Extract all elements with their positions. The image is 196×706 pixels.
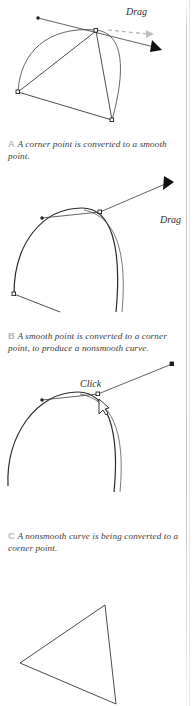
caption-a-text: A corner point is converted to a smooth … [8,139,167,161]
curve-main-b [14,208,118,312]
anchor-point-b-top[interactable] [98,210,102,214]
caption-b: BA smooth point is converted to a corner… [8,330,190,354]
drag-label-a: Drag [126,6,147,17]
caption-c-text: A nonsmooth curve is being converted to … [8,531,178,553]
direction-handle-a-left[interactable] [36,16,39,19]
tangent-line-c-right [98,364,172,394]
curve-outline-a [18,30,120,120]
tangent-line-b-right [100,182,170,212]
anchor-point-a-left[interactable] [16,90,20,94]
document-page: Drag AA corner point is converted to a s… [0,0,196,706]
motion-dashed-line-a [108,30,148,34]
caption-a-letter: A [8,138,15,149]
anchor-point-b-left[interactable] [12,292,16,296]
motion-arrowhead-a [146,30,154,38]
anchor-point-a-bottom[interactable] [110,118,114,122]
direction-handle-b-left[interactable] [40,216,43,219]
cursor-icon [99,399,109,415]
figure-b [0,172,196,312]
figure-c [0,352,196,492]
caption-b-letter: B [8,330,15,341]
triangle-shape [20,605,116,704]
direction-handle-c-left[interactable] [40,398,43,401]
polygon-path-a [18,31,112,120]
direction-handle-c-right[interactable] [170,362,174,366]
tangent-line-b-left [42,212,100,218]
anchor-point-a-top[interactable] [94,29,98,33]
click-label-c: Click [80,378,101,389]
page-edge-rule-secondary [189,0,190,706]
figure-a [0,0,196,136]
tangent-arrowhead-b [163,176,174,190]
caption-a: AA corner point is converted to a smooth… [8,138,190,162]
anchor-point-c-top[interactable] [96,392,100,396]
drag-label-b: Drag [160,214,181,225]
page-edge-rule [186,0,187,706]
caption-c-letter: C [8,530,15,541]
caption-c: CA nonsmooth curve is being converted to… [8,530,190,554]
tangent-arrowhead-a [150,40,162,52]
caption-b-text: A smooth point is converted to a corner … [8,331,167,353]
figure-d [0,566,196,706]
base-edge-b [14,294,60,312]
